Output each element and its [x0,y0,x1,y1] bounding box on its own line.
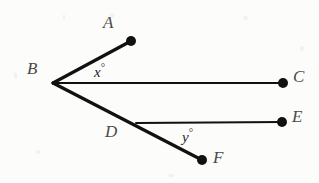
vertex-label-C: C [293,68,304,85]
angle-label-y: y° [182,127,193,145]
vertex-dot-layer [126,36,288,165]
diagram-canvas [0,0,319,183]
segment-BF [53,83,202,160]
angle-label-x: x° [94,62,105,80]
angle-variable-x: x [94,64,101,80]
vertex-label-F: F [213,149,223,166]
vertex-dot-A [126,36,136,46]
geometry-figure: A B C D E F x° y° [0,0,319,183]
vertex-dot-F [197,155,207,165]
vertex-dot-E [277,117,287,127]
vertex-label-B: B [27,60,37,77]
segment-BA [53,41,131,83]
vertex-label-A: A [103,14,113,31]
degree-symbol-y: ° [189,126,193,138]
segment-layer [53,41,283,160]
vertex-label-E: E [292,108,302,125]
degree-symbol-x: ° [101,61,105,73]
vertex-label-D: D [105,123,117,140]
vertex-dot-C [278,78,288,88]
angle-variable-y: y [182,129,189,145]
segment-DE [136,122,282,123]
